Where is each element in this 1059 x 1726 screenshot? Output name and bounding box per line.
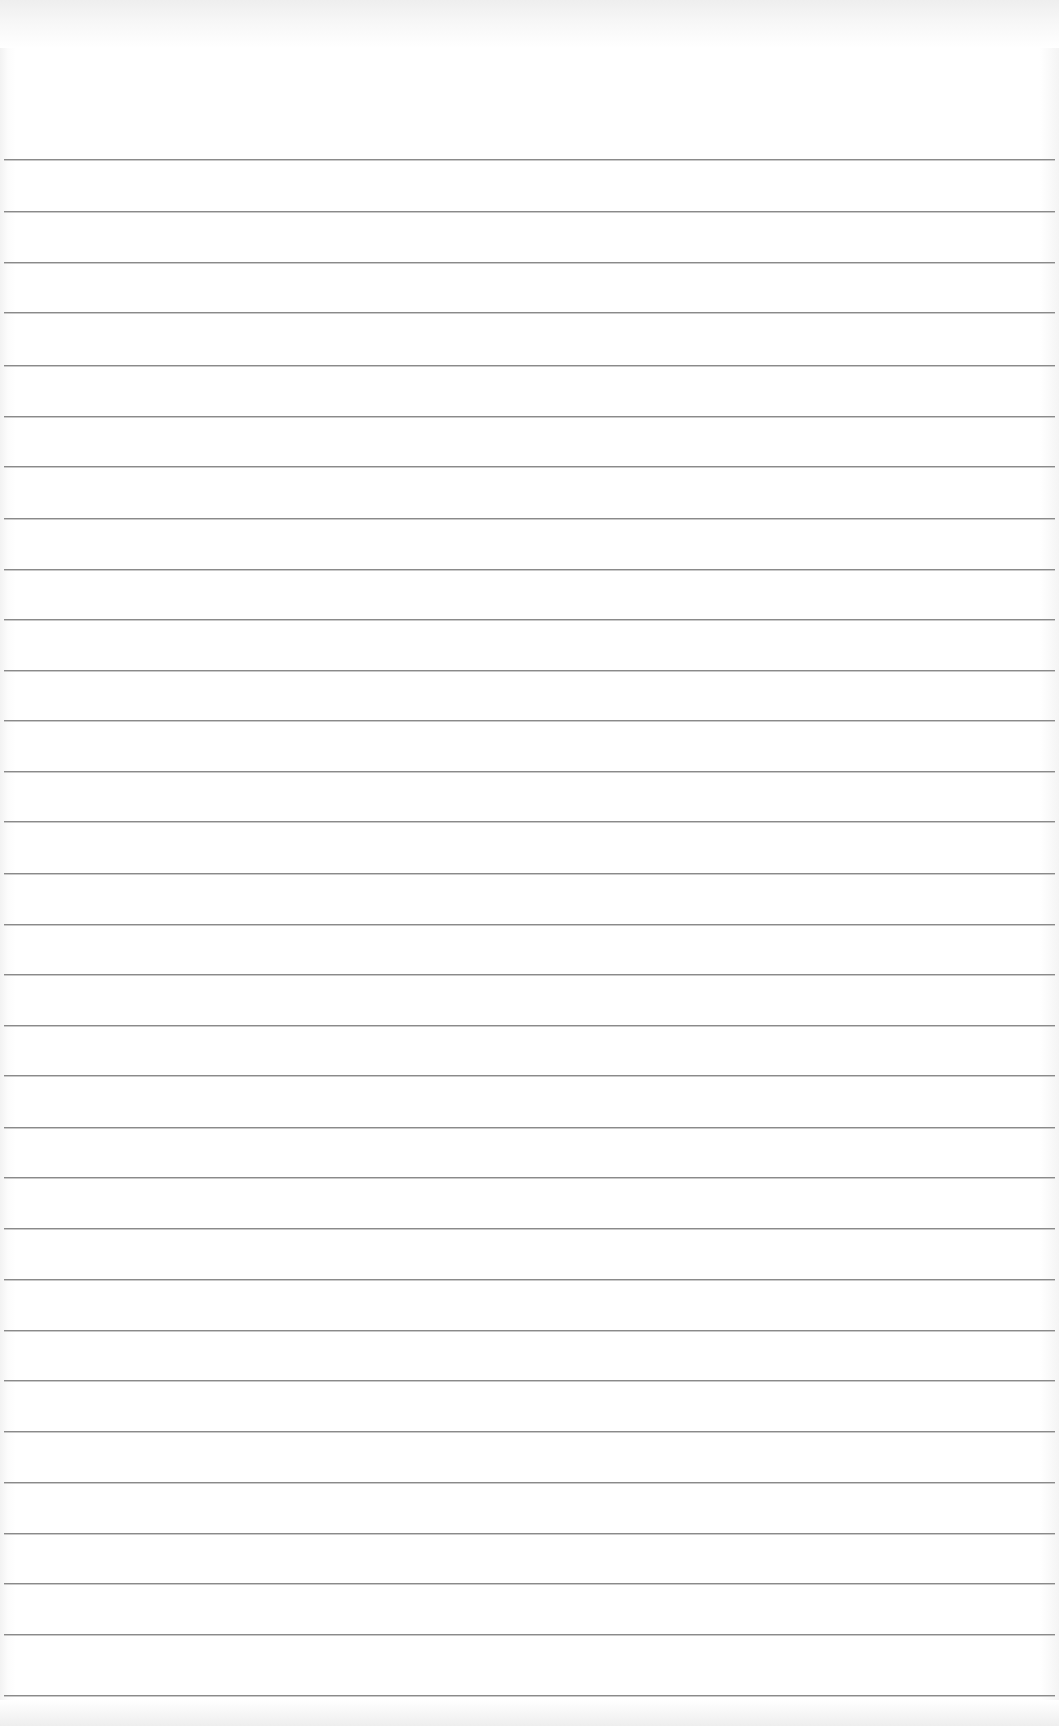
ruled-line	[4, 771, 1055, 773]
ruled-line	[4, 1533, 1055, 1535]
sheet-top-edge	[0, 0, 1059, 48]
ruled-line	[4, 1482, 1055, 1484]
notepad-sheet	[0, 0, 1059, 1726]
ruled-line	[4, 1228, 1055, 1230]
ruled-line	[4, 821, 1055, 823]
ruled-line	[4, 1279, 1055, 1281]
sheet-bottom-edge	[0, 1700, 1059, 1726]
ruled-line	[4, 518, 1055, 520]
ruled-line	[4, 262, 1055, 264]
ruled-line	[4, 1330, 1055, 1332]
ruled-line	[4, 365, 1055, 367]
ruled-line	[4, 466, 1055, 468]
ruled-line	[4, 924, 1055, 926]
ruled-line	[4, 720, 1055, 722]
ruled-line	[4, 1075, 1055, 1077]
ruled-line	[4, 312, 1055, 314]
ruled-line	[4, 416, 1055, 418]
ruled-line	[4, 1025, 1055, 1027]
ruled-line	[4, 670, 1055, 672]
ruled-line	[4, 1127, 1055, 1129]
ruled-line	[4, 1431, 1055, 1433]
ruled-line	[4, 974, 1055, 976]
ruled-line	[4, 1583, 1055, 1585]
ruled-line	[4, 1177, 1055, 1179]
ruled-line	[4, 211, 1055, 213]
ruled-line	[4, 873, 1055, 875]
ruled-line	[4, 569, 1055, 571]
ruled-line	[4, 619, 1055, 621]
ruled-line	[4, 1380, 1055, 1382]
ruled-line	[4, 159, 1055, 161]
ruled-line	[4, 1634, 1055, 1636]
ruled-line	[4, 1695, 1055, 1697]
